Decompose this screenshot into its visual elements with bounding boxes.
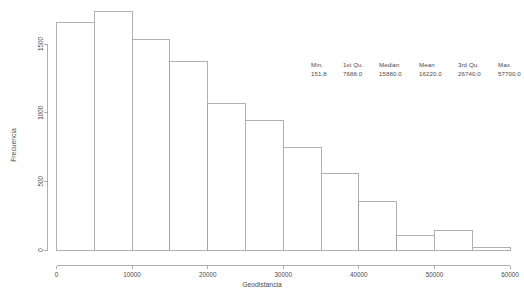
y-axis-tick-label: 1500 xyxy=(37,37,44,52)
summary-stat-header: Max. xyxy=(498,60,524,69)
summary-stat-header: Mean xyxy=(419,60,458,69)
summary-stat-header: Median xyxy=(379,60,419,69)
summary-stat-header: 3rd Qu. xyxy=(458,60,498,69)
summary-stat-value: 151.8 xyxy=(311,69,343,78)
histogram-bar xyxy=(472,247,510,250)
y-axis-tick-label: 500 xyxy=(37,176,44,187)
histogram-bar xyxy=(397,236,435,250)
summary-statistics-values: 151.87688.015880.016220.026740.057700.0 xyxy=(311,69,524,78)
x-axis-tick-label: 50000 xyxy=(426,271,444,278)
summary-stat-value: 26740.0 xyxy=(458,69,498,78)
histogram-bar xyxy=(434,230,472,250)
summary-stat-value: 7688.0 xyxy=(343,69,379,78)
summary-stat-value: 16220.0 xyxy=(419,69,458,78)
histogram-bar xyxy=(170,61,208,250)
summary-stat-value: 57700.0 xyxy=(498,69,524,78)
y-axis-tick-label: 1000 xyxy=(37,105,44,120)
x-axis-tick-label: 10000 xyxy=(123,271,141,278)
summary-stat-header: 1st Qu. xyxy=(343,60,379,69)
x-axis-tick-label: 60000 xyxy=(501,271,519,278)
histogram-bar xyxy=(359,201,397,250)
histogram-bar xyxy=(321,173,359,250)
summary-stat-value: 15880.0 xyxy=(379,69,419,78)
summary-statistics: Min.1st Qu.MedianMean3rd Qu.Max. 151.876… xyxy=(311,60,524,78)
histogram-bar xyxy=(208,103,246,250)
x-axis-tick-label: 20000 xyxy=(199,271,217,278)
summary-statistics-headers: Min.1st Qu.MedianMean3rd Qu.Max. xyxy=(311,60,524,69)
x-axis-title: Geodistancia xyxy=(242,281,282,288)
histogram-bar xyxy=(94,11,132,250)
x-axis: 0100002000030000400005000060000 xyxy=(55,266,520,278)
histogram-bar xyxy=(245,121,283,250)
y-axis-title: Frecuencia xyxy=(10,128,17,162)
histogram-bar xyxy=(132,40,170,250)
histogram-figure: 0100002000030000400005000060000 05001000… xyxy=(0,0,524,299)
y-axis-tick-label: 0 xyxy=(37,248,44,252)
summary-stat-header: Min. xyxy=(311,60,343,69)
x-axis-tick-label: 30000 xyxy=(274,271,292,278)
histogram-bar xyxy=(283,147,321,250)
plot-area: 0100002000030000400005000060000 05001000… xyxy=(0,0,524,299)
y-axis: 050010001500 xyxy=(37,37,47,252)
x-axis-tick-label: 0 xyxy=(55,271,59,278)
x-axis-tick-label: 40000 xyxy=(350,271,368,278)
histogram-bar xyxy=(57,23,95,250)
bars-group xyxy=(57,11,511,250)
